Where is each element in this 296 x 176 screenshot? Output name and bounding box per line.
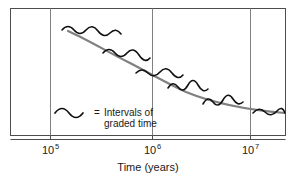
xtick-label-1e6-base: 10: [144, 144, 156, 156]
xtick-label-1e7-exponent: 7: [255, 142, 259, 151]
legend-equals-sign: =: [94, 107, 100, 118]
chart-figure: = Intervals of graded time 10 5 10 6 10 …: [0, 0, 296, 176]
xtick-label-1e5-exponent: 5: [55, 142, 59, 151]
legend-label-line-1: Intervals of: [104, 107, 153, 118]
chart-canvas: = Intervals of graded time 10 5 10 6 10 …: [0, 0, 296, 176]
xtick-label-1e7-base: 10: [242, 144, 254, 156]
legend-label-line-2: graded time: [104, 118, 157, 129]
xtick-label-1e6-exponent: 6: [157, 142, 161, 151]
xtick-label-1e5-base: 10: [42, 144, 54, 156]
x-axis-title: Time (years): [117, 161, 178, 173]
